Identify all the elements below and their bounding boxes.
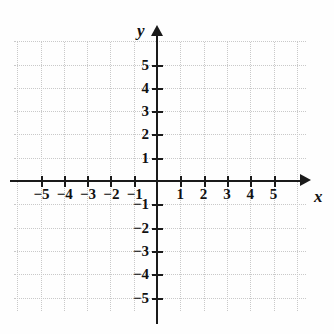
y-tick <box>152 88 163 90</box>
x-axis-label: x <box>314 188 323 205</box>
gridline-vertical <box>297 42 298 311</box>
y-tick <box>152 134 163 136</box>
x-tick-label: 5 <box>262 187 286 202</box>
y-tick-label: 5 <box>123 58 149 73</box>
x-axis-line <box>10 180 306 182</box>
y-tick <box>152 204 163 206</box>
x-axis-arrow-icon <box>300 174 311 186</box>
grid <box>14 42 306 311</box>
x-tick-label: −5 <box>30 187 54 202</box>
y-tick <box>152 65 163 67</box>
y-tick-label: −4 <box>123 267 149 282</box>
y-tick-label: 4 <box>123 81 149 96</box>
y-tick <box>152 111 163 113</box>
x-tick-label: 2 <box>192 187 216 202</box>
x-tick-label: −3 <box>76 187 100 202</box>
x-tick-label: −2 <box>99 187 123 202</box>
x-tick-label: 4 <box>238 187 262 202</box>
y-tick-label: 3 <box>123 104 149 119</box>
x-tick-label: 3 <box>215 187 239 202</box>
x-tick-label: 1 <box>168 187 192 202</box>
y-tick-label: −5 <box>123 291 149 306</box>
y-tick-label: 2 <box>123 127 149 142</box>
y-tick <box>152 228 163 230</box>
y-tick <box>152 158 163 160</box>
y-axis-label: y <box>137 22 145 39</box>
y-tick <box>152 251 163 253</box>
y-axis-line <box>156 32 158 324</box>
y-tick <box>152 274 163 276</box>
y-tick <box>152 298 163 300</box>
gridline-vertical <box>17 42 18 311</box>
y-tick-label: −2 <box>123 221 149 236</box>
y-tick-label: −1 <box>123 197 149 212</box>
y-tick-label: 1 <box>123 151 149 166</box>
coordinate-plane-figure: ( −5−4−3−2−11234554321−1−2−3−4−5 x y <box>0 0 334 334</box>
gridline-horizontal <box>14 41 306 42</box>
x-tick-label: −4 <box>53 187 77 202</box>
y-tick-label: −3 <box>123 244 149 259</box>
y-axis-arrow-icon <box>151 25 163 36</box>
